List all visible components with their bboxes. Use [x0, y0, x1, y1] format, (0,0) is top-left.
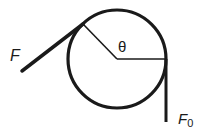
capstan-diagram: θ F F0 [0, 0, 202, 135]
force-label-F0: F0 [178, 110, 193, 129]
force-label-F: F [10, 47, 21, 64]
angle-label: θ [118, 38, 126, 55]
rope-segment-F [22, 24, 83, 71]
force-label-F0-subscript: 0 [187, 117, 193, 129]
radius-line-tangent [83, 24, 117, 59]
